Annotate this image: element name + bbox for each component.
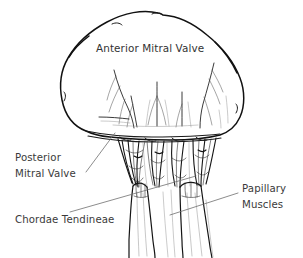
label-papillary-muscles-line2: Muscles <box>242 199 283 210</box>
label-papillary-muscles-line1: Papillary <box>242 183 286 194</box>
label-anterior-mitral-valve: Anterior Mitral Valve <box>96 42 204 54</box>
label-posterior-mitral-valve-line2: Mitral Valve <box>15 168 76 179</box>
label-posterior-mitral-valve-line1: Posterior <box>15 152 62 163</box>
mitral-valve-drawing: Anterior Mitral Valve Posterior Mitral V… <box>0 0 303 258</box>
label-chordae-tendineae: Chordae Tendineae <box>15 214 114 225</box>
mitral-valve-figure: Anterior Mitral Valve Posterior Mitral V… <box>0 0 303 258</box>
